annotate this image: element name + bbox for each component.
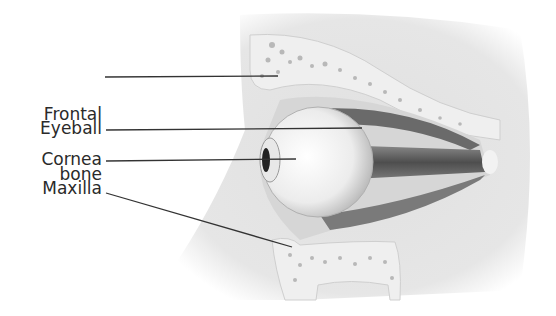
pupil (262, 148, 270, 172)
label-cornea: Cornea (20, 149, 102, 169)
eye-anatomy-diagram: Frontal bone Eyeball Cornea Maxilla (0, 0, 556, 316)
label-eyeball: Eyeball (30, 118, 102, 138)
label-maxilla: Maxilla (20, 178, 102, 198)
label-frontal-bone: Frontal bone (30, 64, 102, 224)
